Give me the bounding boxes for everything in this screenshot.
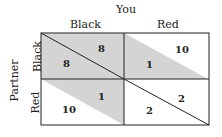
payoff-rb-you: 1 xyxy=(98,91,105,102)
payoff-rb-partner: 10 xyxy=(62,104,76,115)
payoff-bb-partner: 8 xyxy=(63,58,70,69)
payoff-br-partner: 1 xyxy=(146,59,153,70)
payoff-br-you: 10 xyxy=(175,44,189,55)
payoff-rr-partner: 2 xyxy=(146,105,153,116)
payoff-rr-you: 2 xyxy=(178,93,185,104)
payoff-matrix-grid xyxy=(0,0,222,137)
payoff-bb-you: 8 xyxy=(98,43,105,54)
